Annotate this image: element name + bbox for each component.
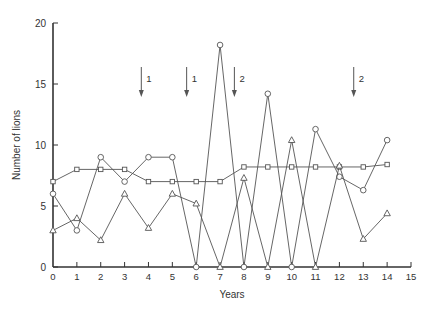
x-tick-label: 0: [50, 271, 55, 282]
square-marker: [313, 165, 317, 169]
triangle-marker: [121, 190, 127, 196]
x-tick-label: 9: [265, 271, 270, 282]
y-tick-label: 5: [40, 201, 46, 212]
x-tick-label: 7: [217, 271, 222, 282]
x-tick-label: 1: [74, 271, 79, 282]
circle-marker: [217, 42, 223, 48]
triangle-marker: [169, 190, 175, 196]
circle-marker: [384, 137, 390, 143]
down-arrow-icon: 1: [184, 67, 197, 97]
square-marker: [242, 165, 246, 169]
triangle-marker: [288, 137, 294, 143]
down-arrow-icon: 2: [232, 67, 245, 97]
circle-marker: [289, 264, 295, 270]
down-arrow-icon: 2: [351, 67, 364, 97]
square-marker: [51, 179, 55, 183]
x-tick-label: 13: [358, 271, 369, 282]
x-tick-label: 12: [334, 271, 345, 282]
triangle-marker: [50, 227, 56, 233]
square-marker: [266, 165, 270, 169]
circle-marker: [360, 187, 366, 193]
square-marker: [75, 167, 79, 171]
square-marker: [289, 165, 293, 169]
arrow-label: 1: [192, 73, 197, 84]
triangle-marker: [384, 210, 390, 216]
series-circles: [50, 42, 390, 270]
x-tick-label: 6: [194, 271, 199, 282]
square-marker: [361, 165, 365, 169]
x-axis-label: Years: [219, 289, 244, 300]
arrow-annotations: 1122: [139, 67, 364, 97]
down-arrow-icon: 1: [139, 67, 152, 97]
circle-marker: [170, 154, 176, 160]
circle-marker: [50, 191, 56, 197]
arrow-label: 2: [239, 73, 244, 84]
x-tick-label: 8: [241, 271, 246, 282]
square-marker: [170, 179, 174, 183]
axes: 051015200123456789101112131415: [35, 18, 416, 283]
y-tick-label: 20: [35, 18, 47, 29]
y-tick-label: 15: [35, 79, 47, 90]
square-marker: [194, 179, 198, 183]
arrow-label: 2: [359, 73, 364, 84]
square-marker: [218, 179, 222, 183]
circle-marker: [265, 91, 271, 97]
circle-marker: [98, 154, 104, 160]
arrow-label: 1: [146, 73, 151, 84]
x-tick-label: 10: [286, 271, 297, 282]
triangle-marker: [241, 175, 247, 181]
circle-marker: [193, 264, 199, 270]
triangle-marker: [74, 215, 80, 221]
circle-marker: [146, 154, 152, 160]
chart-canvas: 051015200123456789101112131415 1122 Year…: [0, 0, 432, 309]
data-series: [50, 42, 391, 270]
circle-marker: [241, 264, 247, 270]
x-tick-label: 11: [311, 271, 321, 282]
x-tick-label: 15: [406, 271, 417, 282]
x-tick-label: 5: [170, 271, 175, 282]
square-marker: [122, 167, 126, 171]
square-marker: [99, 167, 103, 171]
x-tick-label: 14: [382, 271, 393, 282]
y-axis-label: Number of lions: [11, 110, 22, 180]
x-tick-label: 4: [146, 271, 151, 282]
y-tick-label: 0: [40, 262, 46, 273]
square-marker: [385, 162, 389, 166]
x-tick-label: 3: [122, 271, 127, 282]
square-marker: [146, 179, 150, 183]
lion-population-chart: 051015200123456789101112131415 1122 Year…: [0, 0, 432, 309]
circle-marker: [313, 126, 319, 132]
y-tick-label: 10: [35, 140, 47, 151]
circle-marker: [74, 228, 80, 234]
circle-marker: [122, 179, 128, 185]
x-tick-label: 2: [98, 271, 103, 282]
